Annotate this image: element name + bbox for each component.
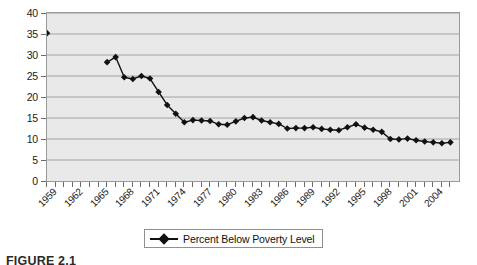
data-point-marker (344, 124, 351, 131)
x-axis-labels: 1959196219651968197119741977198019831986… (0, 186, 477, 230)
data-point-marker (336, 127, 343, 134)
x-tick-label: 1986 (268, 186, 291, 209)
data-point-marker (138, 73, 145, 80)
legend-series-label: Percent Below Poverty Level (183, 233, 315, 245)
y-tick-label: 10 (27, 133, 38, 145)
data-point-marker (353, 121, 360, 128)
data-point-marker (361, 124, 368, 131)
data-point-marker (439, 140, 446, 147)
data-point-marker (250, 114, 257, 121)
y-tick-label: 5 (32, 154, 38, 166)
data-point-marker (447, 139, 454, 146)
y-tick-label: 30 (27, 49, 38, 61)
y-tick-label: 25 (27, 70, 38, 82)
x-tick-label: 1995 (345, 186, 368, 209)
data-point-marker (104, 59, 111, 66)
data-point-marker (215, 121, 222, 128)
data-point-marker (404, 135, 411, 142)
figure-caption: FIGURE 2.1 (6, 254, 466, 265)
x-tick-label: 1992 (319, 186, 342, 209)
data-point-marker (430, 139, 437, 146)
poverty-rate-figure: 0510152025303540 19591962196519681971197… (0, 0, 477, 265)
chart-legend: Percent Below Poverty Level (144, 229, 323, 248)
data-point-marker (370, 126, 377, 133)
y-axis: 0510152025303540 (0, 0, 46, 194)
x-tick-label: 1980 (216, 186, 239, 209)
x-tick-label: 2001 (396, 186, 419, 209)
data-point-marker (224, 121, 231, 128)
data-point-marker (267, 119, 274, 126)
data-point-marker (396, 136, 403, 143)
x-tick-label: 1977 (190, 186, 213, 209)
data-point-marker (130, 76, 137, 83)
x-tick-label: 1983 (242, 186, 265, 209)
x-tick-label: 1962 (62, 186, 85, 209)
x-tick-label: 2004 (422, 186, 445, 209)
x-tick-label: 1998 (371, 186, 394, 209)
data-point-marker (293, 125, 300, 132)
data-point-marker (47, 30, 50, 37)
plot-area (46, 12, 460, 182)
y-tick-label: 15 (27, 112, 38, 124)
x-tick-label: 1968 (113, 186, 136, 209)
data-point-marker (275, 121, 282, 128)
data-point-marker (121, 74, 128, 81)
data-point-marker (233, 118, 240, 125)
poverty-line (107, 57, 450, 143)
chart-canvas (47, 13, 459, 181)
data-point-marker (413, 137, 420, 144)
x-tick-label: 1989 (293, 186, 316, 209)
data-point-marker (327, 126, 334, 133)
y-tick-label: 35 (27, 28, 38, 40)
data-point-marker (207, 118, 214, 125)
data-point-marker (301, 125, 308, 132)
x-tick-label: 1959 (36, 186, 59, 209)
x-tick-label: 1965 (87, 186, 110, 209)
y-tick-label: 40 (27, 7, 38, 19)
poverty-data-points (47, 30, 454, 147)
x-tick-label: 1974 (165, 186, 188, 209)
y-tick-label: 20 (27, 91, 38, 103)
x-tick-label: 1971 (139, 186, 162, 209)
data-point-marker (310, 124, 317, 131)
data-point-marker (284, 125, 291, 132)
legend-diamond-marker-icon (150, 233, 178, 244)
data-point-marker (241, 115, 248, 122)
data-point-marker (318, 126, 325, 133)
